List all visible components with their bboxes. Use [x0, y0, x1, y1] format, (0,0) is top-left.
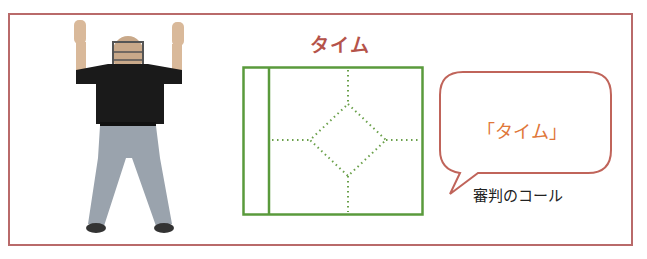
speech-bubble-text: 「タイム」: [442, 117, 602, 143]
caption: 審判のコール: [473, 184, 563, 205]
baseball-field-diagram: [242, 66, 424, 216]
umpire-figure: [60, 18, 200, 236]
page-title: タイム: [290, 30, 390, 57]
